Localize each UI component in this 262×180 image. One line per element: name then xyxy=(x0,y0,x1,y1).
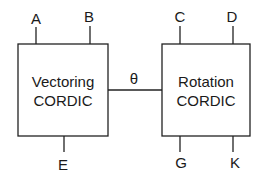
rotation-cordic-label: Rotation CORDIC xyxy=(176,72,235,110)
rotation-line2: CORDIC xyxy=(176,91,235,110)
label-b: B xyxy=(84,9,94,24)
vectoring-cordic-label: Vectoring CORDIC xyxy=(32,72,95,110)
label-a: A xyxy=(31,11,41,26)
rotation-line1: Rotation xyxy=(176,72,235,91)
vectoring-line2: CORDIC xyxy=(32,91,95,110)
label-theta: θ xyxy=(130,71,138,86)
vectoring-line1: Vectoring xyxy=(32,72,95,91)
label-e: E xyxy=(58,157,68,172)
label-k: K xyxy=(230,155,240,170)
label-g: G xyxy=(175,155,187,170)
label-d: D xyxy=(227,9,238,24)
label-c: C xyxy=(175,9,186,24)
